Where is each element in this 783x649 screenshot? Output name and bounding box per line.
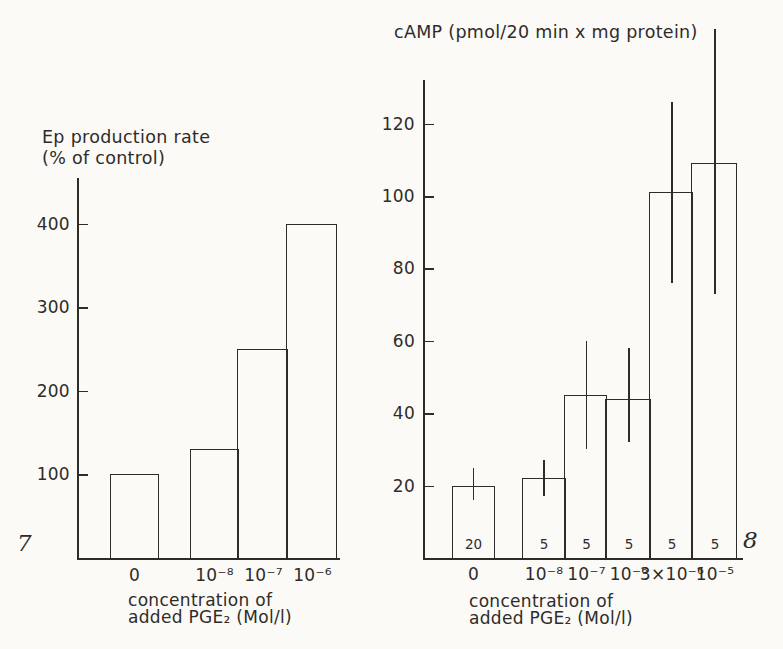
y-tick <box>425 268 434 270</box>
bar-count-label: 5 <box>651 536 693 552</box>
x-axis <box>423 558 743 560</box>
error-bar-3 <box>586 341 588 450</box>
right-chart-x-axis-caption: concentration of added PGE₂ (Mol/l) <box>469 593 633 627</box>
y-tick <box>425 486 434 488</box>
left-chart-x-axis-caption: concentration of added PGE₂ (Mol/l) <box>128 592 292 626</box>
error-bar-1 <box>473 468 475 501</box>
y-tick-label: 200 <box>12 381 70 401</box>
right-chart-title: cAMP (pmol/20 min x mg protein) <box>394 22 698 43</box>
bar-count-label: 5 <box>522 536 566 552</box>
y-tick <box>425 413 434 415</box>
y-tick-label: 80 <box>357 258 415 278</box>
left-chart-title-line2: (% of control) <box>42 148 210 169</box>
bar-1 <box>110 474 159 558</box>
error-bar-5 <box>671 102 673 283</box>
y-axis <box>423 80 425 559</box>
y-tick <box>425 124 434 126</box>
bar-3 <box>237 349 288 558</box>
bar-2 <box>190 449 239 558</box>
y-tick-label: 100 <box>357 186 415 206</box>
x-tick-label: 10⁻⁶ <box>265 565 361 585</box>
y-tick <box>79 474 88 476</box>
y-tick-label: 40 <box>357 403 415 423</box>
right-x-caption-line2: added PGE₂ (Mol/l) <box>469 610 633 627</box>
y-tick <box>425 341 434 343</box>
y-tick-label: 300 <box>12 297 70 317</box>
y-tick <box>79 391 88 393</box>
y-tick-label: 100 <box>12 464 70 484</box>
bar-count-label: 5 <box>693 536 737 552</box>
y-axis <box>77 178 79 560</box>
y-tick-label: 60 <box>357 331 415 351</box>
y-tick <box>79 224 88 226</box>
bar-count-label: 5 <box>607 536 651 552</box>
left-x-caption-line2: added PGE₂ (Mol/l) <box>128 609 292 626</box>
y-tick <box>79 307 88 309</box>
x-tick-label: 10⁻⁵ <box>667 564 763 584</box>
left-chart-title-line1: Ep production rate <box>42 127 210 148</box>
x-axis <box>77 558 340 560</box>
left-chart-title: Ep production rate (% of control) <box>42 127 210 169</box>
error-bar-2 <box>543 460 545 496</box>
figure-number-7: 7 <box>17 530 32 556</box>
y-tick-label: 120 <box>357 114 415 134</box>
bar-count-label: 20 <box>452 536 495 552</box>
bar-count-label: 5 <box>566 536 607 552</box>
y-tick-label: 20 <box>357 476 415 496</box>
y-tick <box>425 196 434 198</box>
error-bar-6 <box>714 29 716 293</box>
figure-number-8: 8 <box>743 527 758 553</box>
scanned-figure-page: Ep production rate (% of control) 7 conc… <box>0 0 783 649</box>
error-bar-4 <box>628 348 630 442</box>
y-tick-label: 400 <box>12 214 70 234</box>
bar-4 <box>286 224 337 558</box>
